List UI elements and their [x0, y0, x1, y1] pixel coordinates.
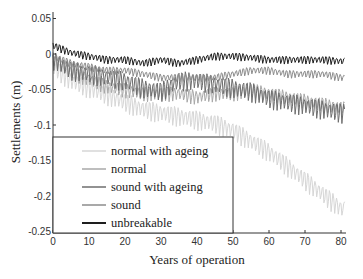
- x-tick-label: 0: [50, 236, 56, 247]
- y-tick-label: -0.1: [34, 120, 52, 131]
- y-axis-title: Settlements (m): [8, 81, 23, 164]
- y-tick-label: 0: [45, 49, 51, 60]
- x-tick-label: 60: [263, 236, 275, 247]
- x-tick-label: 10: [83, 236, 95, 247]
- legend-label: normal: [111, 162, 147, 176]
- x-tick-label: 50: [227, 236, 239, 247]
- y-tick-label: 0.05: [32, 13, 52, 24]
- y-axis-ticks: 0.050-0.05-0.1-0.15-0.2-0.25: [28, 13, 56, 237]
- settlement-chart: 0.050-0.05-0.1-0.15-0.2-0.25 01020304050…: [0, 0, 363, 279]
- x-axis-title: Years of operation: [149, 252, 245, 267]
- y-tick-label: -0.05: [28, 84, 51, 95]
- x-tick-label: 40: [191, 236, 203, 247]
- y-tick-label: -0.15: [28, 155, 51, 166]
- y-tick-label: -0.2: [34, 191, 52, 202]
- x-tick-label: 80: [335, 236, 347, 247]
- legend-label: sound: [111, 198, 142, 212]
- legend-label: sound with ageing: [111, 180, 203, 194]
- legend: normal with ageingnormalsound with agein…: [53, 137, 233, 233]
- legend-label: unbreakable: [111, 216, 173, 230]
- x-tick-label: 20: [119, 236, 131, 247]
- x-tick-label: 70: [299, 236, 311, 247]
- y-tick-label: -0.25: [28, 226, 51, 237]
- x-tick-label: 30: [155, 236, 167, 247]
- legend-label: normal with ageing: [111, 144, 209, 158]
- series-line-unbreakable: [53, 43, 345, 67]
